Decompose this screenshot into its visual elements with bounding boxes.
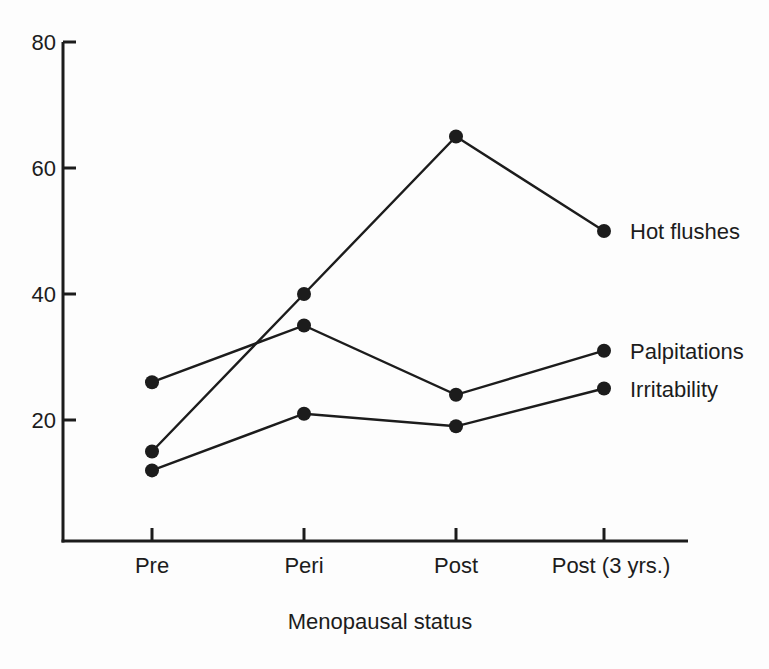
series-label-hot-flushes: Hot flushes xyxy=(630,219,740,244)
x-tick-label: Post xyxy=(434,553,478,578)
series-label-palpitations: Palpitations xyxy=(630,339,744,364)
series-line-palpitations xyxy=(152,326,604,395)
data-point-palpitations xyxy=(297,319,311,333)
y-tick-label: 20 xyxy=(32,408,56,433)
data-point-hot-flushes xyxy=(297,287,311,301)
y-tick-label: 80 xyxy=(32,30,56,55)
data-point-palpitations xyxy=(145,375,159,389)
data-point-hot-flushes xyxy=(449,130,463,144)
data-point-irritability xyxy=(449,419,463,433)
data-point-palpitations xyxy=(597,344,611,358)
x-tick-label: Peri xyxy=(284,553,323,578)
x-tick-label: Pre xyxy=(135,553,169,578)
x-tick-label: Post (3 yrs.) xyxy=(552,553,671,578)
data-point-irritability xyxy=(297,407,311,421)
data-point-hot-flushes xyxy=(145,445,159,459)
series-label-irritability: Irritability xyxy=(630,377,718,402)
series-line-hot-flushes xyxy=(152,137,604,452)
data-point-hot-flushes xyxy=(597,224,611,238)
data-point-palpitations xyxy=(449,388,463,402)
y-tick-label: 60 xyxy=(32,156,56,181)
x-axis-title: Menopausal status xyxy=(288,609,473,634)
series-line-irritability xyxy=(152,389,604,471)
y-tick-label: 40 xyxy=(32,282,56,307)
chart-canvas: 20406080PrePeriPostPost (3 yrs.)Menopaus… xyxy=(0,0,769,669)
data-point-irritability xyxy=(145,463,159,477)
menopausal-symptoms-line-chart: 20406080PrePeriPostPost (3 yrs.)Menopaus… xyxy=(0,0,769,669)
data-point-irritability xyxy=(597,382,611,396)
